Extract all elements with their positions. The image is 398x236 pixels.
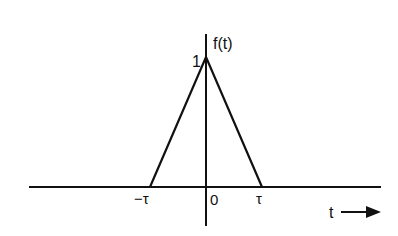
- function-label: f(t): [213, 35, 233, 52]
- right-arrow-icon: [341, 206, 381, 218]
- x-axis-label: t: [329, 204, 334, 221]
- right-tick-label: τ: [256, 190, 262, 207]
- triangular-pulse-diagram: f(t) 1 −τ 0 τ t: [0, 0, 398, 236]
- left-tick-label: −τ: [134, 190, 149, 207]
- peak-label: 1: [192, 53, 201, 70]
- origin-label: 0: [210, 191, 218, 208]
